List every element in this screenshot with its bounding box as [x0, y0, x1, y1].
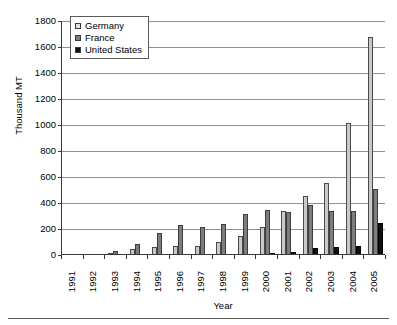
bar-group	[278, 20, 300, 254]
x-tick-label: 1992	[88, 271, 98, 292]
y-tick-label: 400	[0, 198, 56, 208]
x-tick-label: 2004	[348, 271, 358, 292]
y-tick-label: 1200	[0, 94, 56, 104]
x-tick-label: 1993	[110, 271, 120, 292]
y-tick-label: 1800	[0, 16, 56, 26]
legend-item-germany: Germany	[75, 20, 142, 31]
legend-label-germany: Germany	[85, 20, 124, 31]
bar-group	[321, 20, 343, 254]
bar-us-2003	[334, 247, 339, 254]
footer-divider	[8, 318, 389, 319]
bar-france-1998	[221, 224, 226, 254]
bar-group	[343, 20, 365, 254]
x-tick-label: 1999	[240, 271, 250, 292]
x-tick-label: 1997	[196, 271, 206, 292]
x-tick-label: 1991	[67, 271, 77, 292]
legend-swatch-united-states-icon	[75, 47, 81, 53]
bar-us-2004	[356, 246, 361, 254]
bar-france-1993	[113, 251, 118, 254]
bar-france-1997	[200, 227, 205, 254]
legend-swatch-france-icon	[75, 35, 81, 41]
y-axis-tick-labels: 020040060080010001200140016001800	[0, 0, 56, 325]
bar-france-1992	[92, 253, 97, 254]
bar-france-1995	[157, 233, 162, 254]
y-tick-label: 600	[0, 172, 56, 182]
bar-france-2000	[265, 210, 270, 254]
bar-chart-figure: Thousand MT 0200400600800100012001400160…	[0, 0, 397, 325]
bar-us-2002	[313, 248, 318, 254]
x-tick-label: 2005	[369, 271, 379, 292]
bar-france-2002	[308, 205, 313, 254]
y-tick-label: 1000	[0, 120, 56, 130]
bar-group	[364, 20, 386, 254]
bar-france-1996	[178, 225, 183, 254]
x-tick-label: 2000	[261, 271, 271, 292]
bar-group	[192, 20, 214, 254]
bar-us-2005	[378, 223, 383, 254]
bar-group	[148, 20, 170, 254]
legend-label-france: France	[85, 32, 115, 43]
bar-group	[235, 20, 257, 254]
bar-us-2000	[270, 253, 275, 254]
y-tick-label: 0	[0, 250, 56, 260]
x-tick-label: 1994	[132, 271, 142, 292]
y-tick-label: 1600	[0, 42, 56, 52]
legend-label-united-states: United States	[85, 44, 142, 55]
chart-legend: Germany France United States	[70, 16, 149, 59]
x-tick-label: 2002	[304, 271, 314, 292]
y-tick-label: 200	[0, 224, 56, 234]
x-tick-label: 1998	[218, 271, 228, 292]
bar-france-1999	[243, 214, 248, 254]
legend-item-united-states: United States	[75, 44, 142, 55]
bar-group	[300, 20, 322, 254]
x-tick-mark	[385, 255, 386, 259]
legend-swatch-germany-icon	[75, 23, 81, 29]
bar-france-2001	[286, 212, 291, 254]
x-tick-label: 1995	[153, 271, 163, 292]
y-tick-label: 1400	[0, 68, 56, 78]
legend-item-france: France	[75, 32, 142, 43]
bar-us-2001	[291, 252, 296, 254]
x-tick-label: 2003	[326, 271, 336, 292]
bar-group	[170, 20, 192, 254]
bar-group	[213, 20, 235, 254]
x-axis-tick-labels: 1991199219931994199519961997199819992000…	[61, 258, 385, 292]
bar-france-1994	[135, 244, 140, 254]
bar-group	[256, 20, 278, 254]
y-tick-label: 800	[0, 146, 56, 156]
x-tick-label: 1996	[175, 271, 185, 292]
x-tick-label: 2001	[283, 271, 293, 292]
x-axis-title: Year	[61, 300, 385, 311]
